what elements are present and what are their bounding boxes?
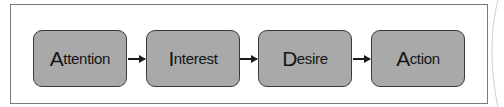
stage-desire: Desire bbox=[258, 30, 352, 87]
arrow-interest-to-desire bbox=[240, 58, 257, 60]
stage-label-rest: nterest bbox=[174, 50, 218, 67]
stage-label-rest: ction bbox=[410, 50, 440, 67]
stage-label-rest: esire bbox=[297, 50, 328, 67]
stage-initial: A bbox=[50, 47, 64, 71]
stage-interest: Interest bbox=[146, 30, 240, 87]
stage-action: Action bbox=[371, 30, 465, 87]
arrow-desire-to-action bbox=[353, 58, 370, 60]
stage-initial: A bbox=[396, 47, 410, 71]
stage-attention: Attention bbox=[33, 30, 127, 87]
stage-label-rest: ttention bbox=[63, 50, 110, 67]
page-edge-curve bbox=[488, 0, 504, 107]
stage-initial: D bbox=[282, 47, 297, 71]
arrow-attention-to-interest bbox=[128, 58, 145, 60]
